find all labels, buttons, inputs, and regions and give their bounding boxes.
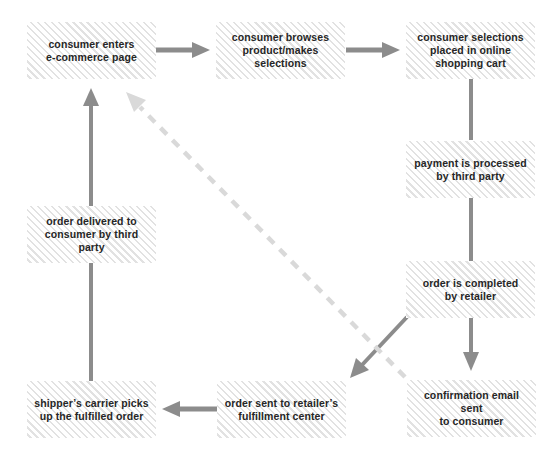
node-label-line: placed in online (430, 44, 511, 56)
node-label-line: confirmation email sent (424, 389, 519, 414)
node-payment-processed: payment is processed by third party (406, 141, 535, 198)
node-label: confirmation email sent to consumer (413, 389, 530, 428)
node-label-line: product/makes (243, 44, 319, 56)
node-label-line: to consumer (439, 415, 503, 427)
node-label-line: order sent to retailer’s (225, 397, 338, 409)
node-order-delivered: order delivered to consumer by third par… (27, 206, 156, 263)
node-label-line: fulfillment center (238, 410, 324, 422)
node-label: consumer selections placed in online sho… (417, 31, 523, 70)
arrow-delivered-to-enter (83, 88, 99, 206)
node-label-line: selections (254, 57, 306, 69)
node-label-line: up the fulfilled order (40, 410, 144, 422)
node-label: consumer browses product/makes selection… (232, 31, 329, 70)
node-label: payment is processed by third party (414, 157, 526, 183)
arrow-enter-to-browse (156, 42, 210, 58)
arrow-browse-to-cart (346, 42, 400, 58)
node-shipper-pickup: shipper’s carrier picks up the fulfilled… (27, 381, 156, 438)
arrow-fulfillment-to-shipper (162, 401, 217, 417)
node-label-line: payment is processed (414, 157, 526, 169)
node-consumer-enters-page: consumer enters e-commerce page (27, 22, 156, 79)
node-label-line: e-commerce page (46, 51, 137, 63)
node-label: order delivered to consumer by third par… (33, 215, 150, 254)
node-label-line: shopping cart (435, 57, 506, 69)
node-shopping-cart: consumer selections placed in online sho… (406, 22, 535, 79)
flow-diagram: consumer enters e-commerce page consumer… (0, 0, 560, 450)
node-consumer-browses: consumer browses product/makes selection… (216, 22, 345, 79)
node-fulfillment-center: order sent to retailer’s fulfillment cen… (217, 381, 346, 438)
node-label: order is completed by retailer (423, 277, 519, 303)
node-label-line: by third party (436, 170, 505, 182)
node-label-line: consumer enters (48, 38, 134, 50)
node-label-line: consumer by third party (45, 228, 138, 253)
node-label-line: shipper’s carrier picks (34, 397, 148, 409)
node-label-line: by retailer (445, 290, 496, 302)
node-label-line: consumer browses (232, 31, 329, 43)
node-confirmation-email: confirmation email sent to consumer (407, 380, 536, 437)
node-order-completed: order is completed by retailer (406, 261, 535, 318)
node-label: consumer enters e-commerce page (46, 38, 137, 64)
node-label: order sent to retailer’s fulfillment cen… (225, 397, 338, 423)
dashed-arrow-email-to-enter (126, 92, 405, 377)
node-label-line: order is completed (423, 277, 519, 289)
node-label: shipper’s carrier picks up the fulfilled… (34, 397, 148, 423)
node-label-line: consumer selections (417, 31, 523, 43)
arrow-completed-to-email (463, 318, 479, 371)
node-label-line: order delivered to (46, 215, 137, 227)
